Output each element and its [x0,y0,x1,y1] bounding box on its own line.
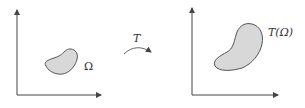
omega-label: Ω [84,60,93,73]
t-omega-region [214,24,262,71]
mapping-arrow [124,48,151,54]
omega-region [45,49,77,74]
transformation-diagram: Ω T T(Ω) [0,0,305,108]
t-omega-label: T(Ω) [268,26,293,39]
left-axes [17,10,101,95]
mapping-label: T [133,32,142,45]
